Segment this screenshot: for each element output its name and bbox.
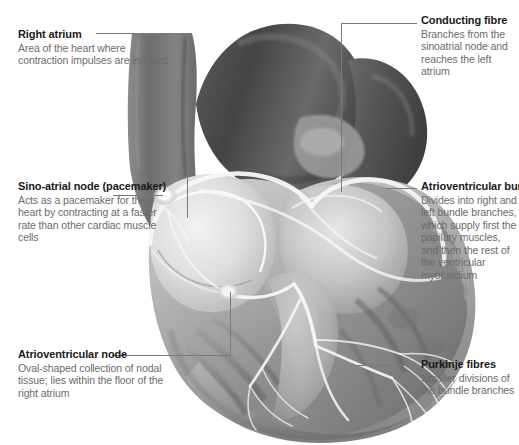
callout-body-atrioventricular-node: Oval-shaped collection of nodal tissue; … (18, 362, 168, 400)
callout-title-atrioventricular-bundle: Atrioventricular bundle (421, 180, 519, 193)
figure-canvas: Right atrium Area of the heart where con… (0, 0, 519, 445)
callout-title-conducting-fibre: Conducting fibre (421, 14, 519, 27)
atrioventricular-node-marker (218, 284, 238, 300)
callout-body-right-atrium: Area of the heart where contraction impu… (18, 42, 178, 67)
callout-body-purkinje-fibres: Smaller divisions of the bundle branches (421, 372, 519, 397)
callout-purkinje-fibres: Purkinje fibres Smaller divisions of the… (421, 358, 519, 397)
callout-body-atrioventricular-bundle: Divides into right and left bundle branc… (421, 194, 519, 282)
callout-atrioventricular-node: Atrioventricular node Oval-shaped collec… (18, 348, 168, 399)
callout-atrioventricular-bundle: Atrioventricular bundle Divides into rig… (421, 180, 519, 282)
callout-title-right-atrium: Right atrium (18, 28, 178, 41)
callout-title-atrioventricular-node: Atrioventricular node (18, 348, 168, 361)
callout-body-conducting-fibre: Branches from the sinoatrial node and re… (421, 28, 519, 78)
callout-title-sino-atrial-node: Sino-atrial node (pacemaker) (18, 180, 168, 193)
callout-title-purkinje-fibres: Purkinje fibres (421, 358, 519, 371)
callout-body-sino-atrial-node: Acts as a pacemaker for the heart by con… (18, 194, 168, 244)
callout-sino-atrial-node: Sino-atrial node (pacemaker) Acts as a p… (18, 180, 168, 244)
callout-right-atrium: Right atrium Area of the heart where con… (18, 28, 178, 67)
callout-conducting-fibre: Conducting fibre Branches from the sinoa… (421, 14, 519, 78)
